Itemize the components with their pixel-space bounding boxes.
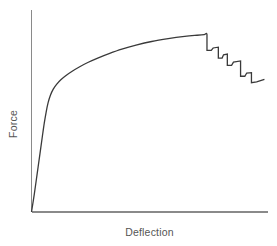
y-axis-label-text: Force [7,110,19,138]
y-axis-label: Force [4,96,22,152]
force-deflection-chart: Force Deflection [0,0,277,246]
x-axis-label: Deflection [31,222,268,240]
chart-plot-area [0,0,277,246]
x-axis-label-text: Deflection [125,226,174,238]
chart-background [0,0,277,246]
